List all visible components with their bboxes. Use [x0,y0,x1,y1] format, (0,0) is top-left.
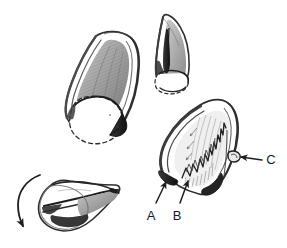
figure-container: A B C [0,0,287,248]
pencil-speckle [117,126,118,127]
callout-arrow-a[interactable] [156,182,166,203]
pencil-speckle [109,114,111,116]
rotation-arrow[interactable] [18,175,40,226]
shell-sketch-figure: A B C [0,0,287,248]
callout-arrow-c[interactable] [241,157,262,160]
panel-bottom-left-shell [18,175,120,231]
panel-top-left-shell [66,32,140,144]
panel-bottom-right-shell [159,100,241,195]
pencil-speckle [81,139,82,140]
label-b: B [173,208,182,223]
label-a: A [147,208,156,223]
label-c: C [266,152,275,167]
shell2-aperture-dashed-rim [155,73,188,94]
panel-top-middle-shell [155,15,189,94]
shell4-lateral-notch [228,151,240,162]
